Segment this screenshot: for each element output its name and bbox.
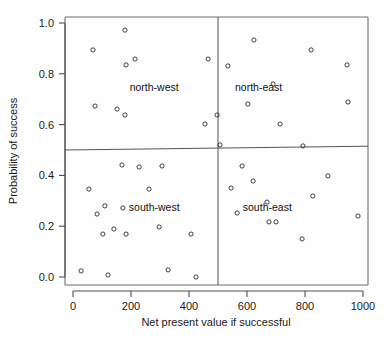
data-point xyxy=(115,107,119,111)
data-point xyxy=(309,48,313,52)
y-tick-label: 0.6 xyxy=(39,119,54,131)
quadrant-divider-lines xyxy=(65,17,368,285)
data-point xyxy=(166,268,170,272)
data-point xyxy=(267,220,271,224)
data-point xyxy=(311,194,315,198)
data-point xyxy=(346,100,350,104)
data-point xyxy=(194,275,198,279)
horizontal-divider xyxy=(65,146,368,150)
data-point-group xyxy=(79,28,360,279)
y-axis-tick-labels: 0.00.20.40.60.81.0 xyxy=(39,17,54,283)
data-point xyxy=(218,143,222,147)
data-point xyxy=(215,113,219,117)
data-point xyxy=(103,204,107,208)
data-point xyxy=(189,232,193,236)
data-point xyxy=(226,64,230,68)
data-point xyxy=(120,163,124,167)
data-point xyxy=(326,174,330,178)
data-point xyxy=(87,187,91,191)
y-tick-label: 0.0 xyxy=(39,271,54,283)
data-point xyxy=(93,104,97,108)
data-point xyxy=(345,63,349,67)
data-point xyxy=(112,227,116,231)
data-point xyxy=(91,48,95,52)
data-point xyxy=(157,225,161,229)
data-point xyxy=(300,237,304,241)
data-point xyxy=(124,63,128,67)
data-point xyxy=(79,269,83,273)
y-tick-label: 0.4 xyxy=(39,169,54,181)
y-tick-label: 1.0 xyxy=(39,17,54,29)
x-tick-label: 1000 xyxy=(351,300,375,312)
data-point xyxy=(229,186,233,190)
data-point xyxy=(160,164,164,168)
quadrant-label: south-west xyxy=(129,201,180,213)
data-point xyxy=(95,212,99,216)
plot-frame xyxy=(65,17,368,285)
x-tick-label: 400 xyxy=(180,300,198,312)
data-point xyxy=(274,220,278,224)
x-axis-title: Net present value if successful xyxy=(141,316,290,328)
scatter-plot-figure: 0.00.20.40.60.81.0 02004006008001000 nor… xyxy=(0,0,390,339)
y-tick-label: 0.8 xyxy=(39,68,54,80)
data-point xyxy=(240,164,244,168)
data-point xyxy=(206,57,210,61)
x-tick-label: 200 xyxy=(122,300,140,312)
data-point xyxy=(133,57,137,61)
x-tick-label: 600 xyxy=(238,300,256,312)
data-point xyxy=(137,165,141,169)
data-point xyxy=(278,122,282,126)
x-tick-label: 800 xyxy=(296,300,314,312)
quadrant-label: south-east xyxy=(243,201,292,213)
quadrant-label: north-west xyxy=(130,81,179,93)
y-tick-label: 0.2 xyxy=(39,220,54,232)
data-point xyxy=(235,211,239,215)
data-point xyxy=(123,28,127,32)
x-tick-label: 0 xyxy=(70,300,76,312)
data-point xyxy=(123,113,127,117)
data-point xyxy=(251,179,255,183)
y-axis-ticks xyxy=(59,23,65,277)
data-point xyxy=(252,38,256,42)
data-point xyxy=(106,273,110,277)
quadrant-label: north-east xyxy=(235,81,282,93)
data-point xyxy=(101,232,105,236)
data-point xyxy=(203,122,207,126)
plot-canvas: 0.00.20.40.60.81.0 02004006008001000 nor… xyxy=(0,0,390,339)
data-point xyxy=(124,232,128,236)
data-point xyxy=(121,206,125,210)
data-point xyxy=(147,187,151,191)
y-axis-title: Probability of success xyxy=(7,97,19,204)
data-point xyxy=(356,214,360,218)
data-point xyxy=(246,102,250,106)
x-axis-ticks xyxy=(73,291,363,297)
x-axis-tick-labels: 02004006008001000 xyxy=(70,300,375,312)
